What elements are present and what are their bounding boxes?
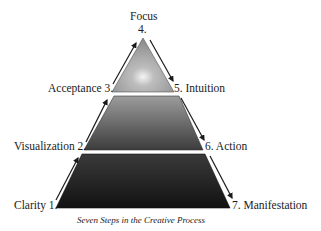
label-focus-title: Focus bbox=[130, 11, 157, 23]
label-step-5: 5. Intuition bbox=[174, 83, 225, 95]
label-step-1: Clarity 1. bbox=[14, 200, 57, 212]
label-step-3: Acceptance 3. bbox=[48, 83, 113, 95]
pyramid-tier-bottom bbox=[56, 154, 230, 208]
label-step-6: 6. Action bbox=[205, 141, 247, 153]
label-step-2: Visualization 2. bbox=[14, 141, 86, 153]
pyramid-tier-middle bbox=[84, 96, 203, 150]
label-step-7: 7. Manifestation bbox=[232, 200, 307, 212]
pyramid-diagram bbox=[0, 0, 321, 231]
diagram-caption: Seven Steps in the Creative Process bbox=[77, 216, 205, 225]
label-step-4: 4. bbox=[138, 24, 147, 36]
